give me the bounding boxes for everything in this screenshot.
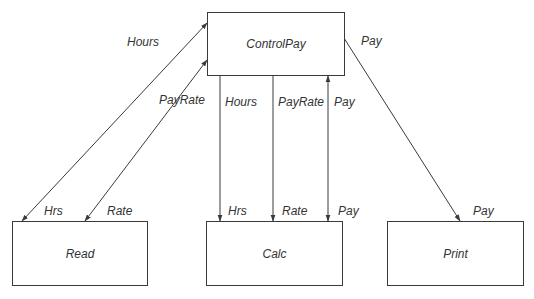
node-controlpay: ControlPay [207, 12, 345, 76]
edge-label-rate-read: Rate [107, 204, 132, 218]
node-print: Print [387, 221, 524, 286]
edge-label-rate-calc: Rate [282, 204, 307, 218]
edge-payrate-read [85, 60, 207, 221]
edge-hours-read [22, 23, 207, 221]
node-calc: Calc [206, 221, 343, 286]
edge-label-payrate-left: PayRate [159, 93, 205, 107]
node-print-label: Print [443, 247, 468, 261]
node-read: Read [12, 221, 148, 286]
edge-label-hours-left: Hours [127, 35, 159, 49]
node-controlpay-label: ControlPay [246, 37, 305, 51]
edge-label-hrs-read: Hrs [44, 204, 63, 218]
node-read-label: Read [66, 247, 95, 261]
edge-label-hours-calc: Hours [225, 95, 257, 109]
edge-label-pay-print-top: Pay [361, 34, 382, 48]
edge-label-pay-calc-top: Pay [334, 95, 355, 109]
edge-label-pay-calc-bottom: Pay [338, 204, 359, 218]
node-calc-label: Calc [262, 247, 286, 261]
edge-label-payrate-calc: PayRate [278, 95, 324, 109]
edge-pay-print [344, 38, 460, 221]
edge-label-pay-print-bottom: Pay [473, 204, 494, 218]
edge-label-hrs-calc: Hrs [228, 204, 247, 218]
